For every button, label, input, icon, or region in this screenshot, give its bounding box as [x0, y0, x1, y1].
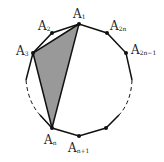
label-A2: A2 [38, 20, 51, 32]
label-A1: A1 [73, 8, 86, 20]
dashed-arc-left [26, 80, 40, 115]
label-A3: A3 [16, 45, 29, 57]
label-A2n-1: A2n−1 [131, 44, 156, 56]
dashed-arc-right [119, 80, 132, 115]
shaded-triangle [33, 24, 79, 128]
label-An: An [44, 134, 57, 146]
polygon-diagram [0, 0, 164, 162]
label-A2n: A2n [110, 20, 126, 32]
label-An+1: An+1 [68, 142, 89, 154]
